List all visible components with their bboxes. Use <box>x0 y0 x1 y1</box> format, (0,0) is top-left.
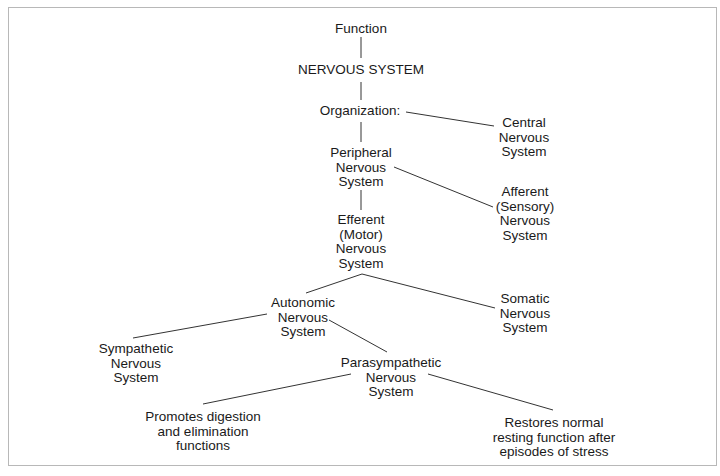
node-efferent-nervous-system: Efferent (Motor) Nervous System <box>336 213 386 271</box>
node-afferent-nervous-system: Afferent (Sensory) Nervous System <box>496 185 555 243</box>
node-organization: Organization: <box>320 104 400 119</box>
node-function: Function <box>335 22 387 37</box>
node-autonomic-nervous-system: Autonomic Nervous System <box>271 296 335 340</box>
node-promotes-digestion: Promotes digestion and elimination funct… <box>145 410 261 454</box>
edge-efferent-autonomic <box>306 274 362 293</box>
node-nervous-system: NERVOUS SYSTEM <box>298 63 424 78</box>
node-central-nervous-system: Central Nervous System <box>499 116 549 160</box>
edge-organization-central <box>406 112 494 126</box>
edge-efferent-somatic <box>362 274 495 308</box>
edge-peripheral-afferent <box>394 167 493 207</box>
edge-autonomic-parasympathetic <box>329 320 387 352</box>
node-peripheral-nervous-system: Peripheral Nervous System <box>330 146 392 190</box>
edge-parasympathetic-restores <box>428 374 553 410</box>
node-sympathetic-nervous-system: Sympathetic Nervous System <box>99 342 173 386</box>
node-parasympathetic-nervous-system: Parasympathetic Nervous System <box>341 356 442 400</box>
node-restores-resting-function: Restores normal resting function after e… <box>493 416 615 460</box>
edge-autonomic-sympathetic <box>133 314 267 338</box>
node-somatic-nervous-system: Somatic Nervous System <box>500 292 550 336</box>
edge-parasympathetic-promotes <box>203 374 351 404</box>
